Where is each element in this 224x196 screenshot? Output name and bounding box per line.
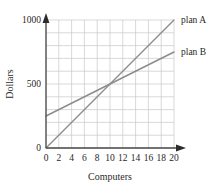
y-axis-arrow-icon (43, 13, 50, 23)
x-tick-label-0: 0 (44, 153, 49, 163)
x-tick-label-6: 6 (82, 153, 87, 163)
y-tick-label-0: 0 (36, 143, 41, 153)
x-tick-label-2: 2 (56, 153, 61, 163)
x-tick-label-14: 14 (131, 153, 141, 163)
x-axis (46, 145, 186, 152)
x-tick-label-10: 10 (105, 153, 115, 163)
series-label-plan-b: plan B (181, 47, 206, 57)
x-tick-label-4: 4 (69, 153, 74, 163)
x-axis-title: Computers (88, 171, 132, 182)
y-tick-label-1000: 1000 (22, 15, 41, 25)
x-tick-label-16: 16 (144, 153, 154, 163)
x-tick-label-8: 8 (95, 153, 100, 163)
y-axis-title: Dollars (4, 69, 15, 99)
chart-container: 1000 500 0 0 2 4 6 8 10 12 14 16 18 20 C… (0, 0, 224, 196)
x-axis-arrow-icon (176, 145, 186, 152)
y-tick-label-500: 500 (27, 79, 42, 89)
y-axis (43, 13, 50, 148)
line-chart: 1000 500 0 0 2 4 6 8 10 12 14 16 18 20 C… (0, 0, 224, 196)
x-tick-label-18: 18 (156, 153, 166, 163)
x-tick-label-12: 12 (118, 153, 128, 163)
x-tick-label-20: 20 (169, 153, 179, 163)
series-label-plan-a: plan A (181, 15, 206, 25)
